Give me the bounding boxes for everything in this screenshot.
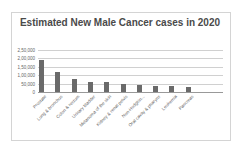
bar <box>104 82 109 92</box>
bar <box>153 86 158 92</box>
x-axis-line <box>38 92 223 93</box>
gridline <box>38 58 223 59</box>
plot-area: 2,50,0002,00,0001,50,0001,00,00050,0000P… <box>38 50 223 92</box>
bar <box>121 84 126 92</box>
y-tick-label: 2,00,000 <box>5 56 35 61</box>
gridline <box>38 67 223 68</box>
y-tick-label: 1,50,000 <box>5 64 35 69</box>
bar <box>186 87 191 92</box>
bar <box>169 86 174 92</box>
bar <box>55 72 60 92</box>
y-tick-label: 2,50,000 <box>5 48 35 53</box>
gridline <box>38 75 223 76</box>
gridline <box>38 84 223 85</box>
bar <box>88 82 93 92</box>
y-tick-label: 0 <box>5 90 35 95</box>
bar <box>72 79 77 92</box>
y-tick-label: 1,00,000 <box>5 73 35 78</box>
bar <box>137 85 142 92</box>
y-tick-label: 50,000 <box>5 81 35 86</box>
chart-title: Estimated New Male Cancer cases in 2020 <box>11 17 229 29</box>
gridline <box>38 50 223 51</box>
bar <box>39 60 44 92</box>
